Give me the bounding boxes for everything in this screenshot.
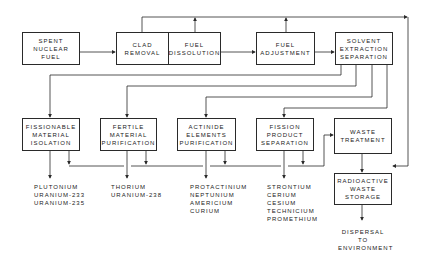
waste-treatment-box: WASTE TREATMENT: [334, 118, 392, 154]
label: SEPARATION: [261, 139, 309, 147]
output-item: CESIUM: [267, 199, 318, 207]
clad-removal-box: CLAD REMOVAL: [116, 32, 169, 65]
output-item: PROMETHIUM: [267, 215, 318, 223]
solvent-extraction-box: SOLVENT EXTRACTION SEPARATION: [335, 32, 393, 65]
label: ELEMENTS: [186, 131, 226, 139]
label: FUEL: [276, 41, 295, 49]
label: ADJUSTMENT: [260, 49, 310, 57]
output-item: DISPERSAL: [338, 228, 388, 236]
spent-nuclear-fuel-box: SPENT NUCLEAR FUEL: [22, 32, 80, 65]
label: PURIFICATION: [102, 139, 156, 147]
label: FUEL: [185, 41, 204, 49]
label: FISSION: [269, 123, 300, 131]
label: WASTE: [350, 185, 376, 193]
label: NUCLEAR: [33, 45, 69, 53]
label: REMOVAL: [125, 49, 161, 57]
actinide-elements-box: ACTINIDE ELEMENTS PURIFICATION: [177, 118, 236, 151]
label: PURIFICATION: [180, 139, 234, 147]
output-item: CERIUM: [267, 191, 318, 199]
label: MATERIAL: [110, 131, 148, 139]
fissionable-outputs: PLUTONIUM URANIUM-233 URANIUM-235: [34, 183, 85, 207]
label: ACTINIDE: [188, 123, 224, 131]
output-item: STRONTIUM: [267, 183, 318, 191]
label: FUEL: [41, 53, 60, 61]
output-item: CURIUM: [190, 207, 247, 215]
actinide-outputs: PROTACTINIUM NEPTUNIUM AMERICIUM CURIUM: [190, 183, 247, 215]
fissionable-material-box: FISSIONABLE MATERIAL ISOLATION: [22, 118, 80, 151]
label: ISOLATION: [31, 139, 72, 147]
output-item: PLUTONIUM: [34, 183, 85, 191]
output-item: URANIUM-233: [34, 191, 85, 199]
label: FERTILE: [113, 123, 145, 131]
label: WASTE: [350, 128, 376, 136]
output-item: PROTACTINIUM: [190, 183, 247, 191]
output-item: URANIUM-238: [111, 191, 162, 199]
fission-product-box: FISSION PRODUCT SEPARATION: [256, 118, 314, 151]
label: CLAD: [132, 41, 152, 49]
output-item: URANIUM-235: [34, 199, 85, 207]
fertile-material-box: FERTILE MATERIAL PURIFICATION: [100, 118, 157, 151]
output-item: TO: [338, 236, 388, 244]
fuel-adjustment-box: FUEL ADJUSTMENT: [256, 32, 315, 65]
output-item: ENVIRONMENT: [338, 244, 388, 252]
dispersal-output: DISPERSAL TO ENVIRONMENT: [338, 228, 388, 252]
output-item: THORIUM: [111, 183, 162, 191]
output-item: AMERICIUM: [190, 199, 247, 207]
radioactive-waste-storage-box: RADIOACTIVE WASTE STORAGE: [334, 173, 392, 205]
fertile-outputs: THORIUM URANIUM-238: [111, 183, 162, 199]
output-item: TECHNICIUM: [267, 207, 318, 215]
label: TREATMENT: [340, 136, 385, 144]
label: SPENT: [38, 37, 63, 45]
output-item: NEPTUNIUM: [190, 191, 247, 199]
label: SEPARATION: [340, 53, 388, 61]
label: SOLVENT: [347, 37, 382, 45]
label: FISSIONABLE: [26, 123, 76, 131]
label: RADIOACTIVE: [337, 177, 389, 185]
fission-product-outputs: STRONTIUM CERIUM CESIUM TECHNICIUM PROME…: [267, 183, 318, 223]
label: STORAGE: [345, 193, 381, 201]
label: EXTRACTION: [340, 45, 389, 53]
label: PRODUCT: [267, 131, 304, 139]
fuel-dissolution-box: FUEL DISSOLUTION: [168, 32, 221, 65]
label: MATERIAL: [32, 131, 70, 139]
label: DISSOLUTION: [169, 49, 221, 57]
